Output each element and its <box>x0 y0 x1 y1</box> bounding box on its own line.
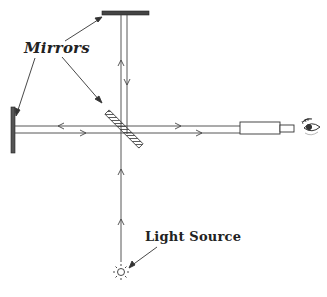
left-mirror <box>11 107 15 153</box>
interferometer-diagram: Mirrors Light Source <box>0 0 327 297</box>
top-mirror <box>102 11 149 15</box>
mirrors-label: Mirrors <box>24 39 90 57</box>
vertical-beam-upper <box>118 15 130 134</box>
vertical-beam-lower <box>118 134 124 262</box>
light-source-icon <box>113 264 129 280</box>
light-source-label: Light Source <box>145 229 241 244</box>
mirror-pointer-arrows <box>15 17 102 116</box>
eye-icon <box>302 118 320 135</box>
beam-splitter <box>105 110 143 148</box>
telescope <box>240 122 294 134</box>
source-pointer-arrow <box>129 247 157 268</box>
